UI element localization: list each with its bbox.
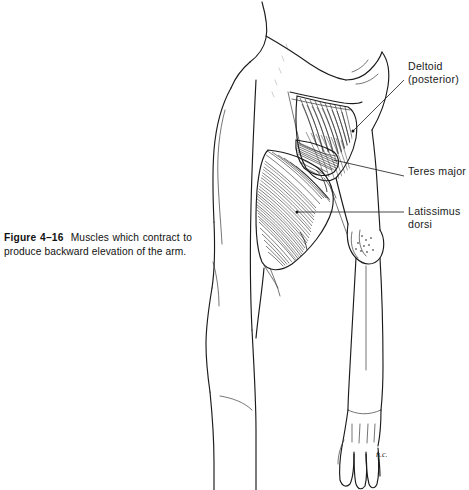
figure-illustration: n.c. Figure 4–16 Muscles which contract … (0, 0, 469, 490)
leader-teres (334, 160, 404, 176)
artist-signature: n.c. (376, 450, 388, 459)
leader-deltoid (353, 80, 404, 131)
figure-number: Figure 4–16 (4, 232, 64, 243)
label-deltoid: Deltoid (posterior) (408, 60, 459, 86)
deltoid-muscle (296, 96, 357, 198)
figure-caption: Figure 4–16 Muscles which contract to pr… (4, 231, 192, 260)
scan-artifacts (272, 44, 288, 97)
latissimus-dorsi-muscle (255, 150, 333, 296)
right-arm: n.c. (330, 130, 388, 489)
shoulder-girdle (266, 36, 389, 156)
label-latissimus-dorsi: Latissimus dorsi (408, 205, 461, 231)
label-teres-major: Teres major (408, 165, 466, 178)
